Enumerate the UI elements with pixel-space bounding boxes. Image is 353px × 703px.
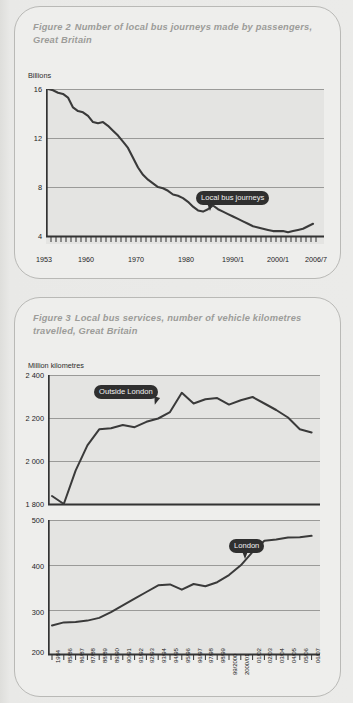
figure-3-top-ytick-2000: 2 000: [12, 457, 44, 466]
figure-3-caption: Local bus services, number of vehicle ki…: [33, 313, 301, 336]
figure-2-xtick-1953: 1953: [36, 255, 52, 264]
figure-3-callout-outside-london: Outside London: [94, 385, 158, 399]
figure-3-title: Figure 3Local bus services, number of ve…: [33, 312, 321, 337]
figure-3-xtick-16: 2000/01: [243, 654, 250, 675]
figure-2-xtick-2006: 2006/7: [305, 255, 327, 264]
figure-3-xtick-1: 85/86: [66, 648, 73, 663]
figure-2-number: Figure 2: [33, 22, 71, 32]
figure-3-top-ytick-2200: 2 200: [12, 414, 44, 423]
figure-3-xtick-11: 95/96: [184, 648, 191, 663]
figure-3-bottom-ytick-300: 300: [12, 608, 44, 617]
figure-3-y-axis-title: Million kilometres: [28, 361, 84, 370]
figure-3-xtick-10: 94/95: [172, 648, 179, 663]
figure-3-xtick-7: 91/92: [137, 648, 144, 663]
figure-2-callout-tail: [207, 203, 213, 211]
figure-3-xtick-12: 96/97: [196, 648, 203, 663]
document-page: Figure 2Number of local bus journeys mad…: [0, 0, 353, 703]
figure-3-xtick-8: 92/93: [148, 648, 155, 663]
figure-3-xtick-13: 97/98: [207, 648, 214, 663]
figure-2-xtick-1970: 1970: [128, 255, 144, 264]
figure-3-xtick-19: 03/04: [278, 648, 285, 663]
figure-3-xtick-18: 02/03: [266, 648, 273, 663]
figure-3-top-ytick-1800: 1 800: [12, 500, 44, 509]
figure-2-y-axis-title: Billions: [28, 71, 51, 80]
figure-3-top-ytick-2400: 2 400: [12, 371, 44, 380]
figure-3-bottom-plot: [48, 520, 320, 662]
figure-3-xtick-4: 88/89: [101, 648, 108, 663]
figure-2-xtick-1960: 1960: [78, 255, 94, 264]
figure-2-xtick-1990: 1990/1: [222, 255, 244, 264]
figure-2-xtick-1980: 1980: [178, 255, 194, 264]
figure-3-xtick-2: 86/87: [78, 648, 85, 663]
figure-3-bottom-ytick-500: 500: [12, 516, 44, 525]
figure-2-plot: [46, 89, 324, 254]
figure-3-number: Figure 3: [33, 313, 71, 323]
figure-3-xtick-15: 99/2000: [231, 654, 238, 675]
figure-3-callout-london-tail: [242, 551, 248, 559]
figure-2-ytick-4: 4: [20, 232, 42, 241]
figure-3-xtick-21: 05/06: [302, 648, 309, 663]
figure-2-ytick-8: 8: [20, 183, 42, 192]
figure-2-title: Figure 2Number of local bus journeys mad…: [33, 21, 318, 46]
figure-3-xtick-22: 06/07: [314, 648, 321, 663]
figure-2-ytick-12: 12: [20, 134, 42, 143]
figure-2-caption: Number of local bus journeys made by pas…: [33, 22, 312, 45]
figure-3-xtick-5: 89/90: [113, 648, 120, 663]
figure-3-xtick-0: 1984: [54, 650, 61, 663]
figure-3-xtick-3: 87/88: [89, 648, 96, 663]
figure-3-xtick-6: 90/91: [125, 648, 132, 663]
figure-3-bottom-ytick-200: 200: [12, 648, 44, 657]
figure-3-xtick-17: 01/02: [255, 648, 262, 663]
figure-3-xtick-9: 93/94: [160, 648, 167, 663]
figure-3-xtick-14: 98/99: [219, 648, 226, 663]
figure-3-top-plot: [48, 375, 320, 513]
figure-2-ytick-16: 16: [20, 85, 42, 94]
figure-3-xtick-20: 04/05: [290, 648, 297, 663]
figure-3-bottom-ytick-400: 400: [12, 562, 44, 571]
figure-2-xtick-2000: 2000/1: [267, 255, 289, 264]
